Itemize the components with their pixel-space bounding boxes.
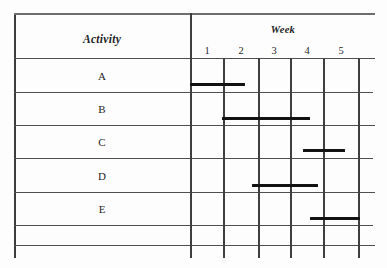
header-bottom-rule xyxy=(14,58,375,59)
gantt-table-frame: Activity Week 1 2 3 4 5 A B C D E xyxy=(14,13,378,258)
week-tick-label-5: 5 xyxy=(326,46,356,57)
gantt-bar-activity-c xyxy=(303,149,345,152)
gantt-bar-activity-a xyxy=(190,83,245,86)
gantt-bar-activity-e xyxy=(310,217,360,220)
week-gridline-3 xyxy=(290,58,292,258)
table-left-border xyxy=(14,13,16,258)
week-tick-label-1: 1 xyxy=(192,46,222,57)
week-gridline-4 xyxy=(323,58,325,258)
activity-column-header: Activity xyxy=(14,34,190,46)
gantt-chart: Activity Week 1 2 3 4 5 A B C D E xyxy=(0,0,387,268)
week-column-header: Week xyxy=(191,25,375,36)
row-rule-e xyxy=(14,225,373,226)
activity-row-label-d: D xyxy=(14,171,190,182)
activity-row-label-b: B xyxy=(14,104,190,115)
week-gridline-2 xyxy=(258,58,260,258)
gantt-bar-activity-b xyxy=(222,117,310,120)
week-gridline-5 xyxy=(358,58,360,258)
row-rule-a xyxy=(14,92,373,93)
week-gridline-1 xyxy=(223,58,225,258)
row-rule-d xyxy=(14,192,375,193)
row-rule-c xyxy=(14,158,373,159)
row-rule-b xyxy=(14,125,375,126)
week-tick-label-2: 2 xyxy=(226,46,256,57)
gantt-bar-activity-d xyxy=(252,184,318,187)
row-rule-bottom xyxy=(14,245,375,246)
week-tick-label-4: 4 xyxy=(292,46,322,57)
week-tick-label-3: 3 xyxy=(259,46,289,57)
activity-row-label-c: C xyxy=(14,137,190,148)
activity-row-label-e: E xyxy=(14,204,190,215)
activity-row-label-a: A xyxy=(14,71,190,82)
table-top-border xyxy=(14,13,375,15)
